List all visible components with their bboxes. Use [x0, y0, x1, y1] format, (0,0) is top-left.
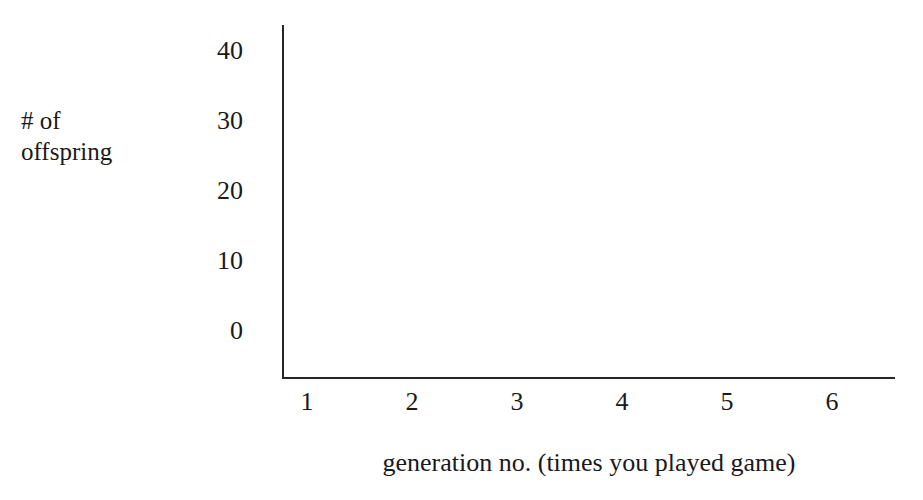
x-tick-label-3: 3: [487, 388, 547, 416]
x-tick-label-5: 5: [697, 388, 757, 416]
x-tick-label-2: 2: [382, 388, 442, 416]
y-tick-label-40: 40: [143, 38, 243, 64]
y-tick-20: 20: [143, 178, 243, 204]
y-tick-label-20: 20: [143, 178, 243, 204]
y-tick-label-10: 10: [143, 248, 243, 274]
y-tick-40: 40: [143, 38, 243, 64]
y-tick-30: 30: [143, 108, 243, 134]
x-axis-title: generation no. (times you played game): [283, 448, 895, 478]
chart-screenshot: # of offspring 40 30 20 10 0 1 2 3 4 5 6…: [0, 0, 923, 500]
x-tick-label-4: 4: [592, 388, 652, 416]
y-tick-label-30: 30: [143, 108, 243, 134]
x-tick-label-1: 1: [277, 388, 337, 416]
y-tick-0: 0: [143, 318, 243, 344]
x-tick-label-6: 6: [802, 388, 862, 416]
y-axis-line: [282, 25, 284, 379]
x-axis-line: [282, 377, 895, 379]
y-tick-label-0: 0: [143, 318, 243, 344]
chart-plot-area: # of offspring 40 30 20 10 0 1 2 3 4 5 6…: [0, 0, 923, 500]
y-tick-10: 10: [143, 248, 243, 274]
